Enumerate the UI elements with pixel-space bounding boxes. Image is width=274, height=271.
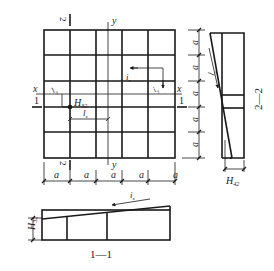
side-dim-a: a bbox=[189, 65, 200, 70]
side-dim-a: a bbox=[189, 40, 200, 45]
ix-label-section: ix bbox=[130, 190, 136, 201]
section-1-1-outline bbox=[42, 210, 170, 240]
bottom-dim-a: a bbox=[54, 169, 59, 180]
ix-slope-path bbox=[131, 68, 163, 88]
side-dim-a: a bbox=[189, 91, 200, 96]
bottom-dim-a: a bbox=[139, 169, 144, 180]
side-dim-a: a bbox=[189, 142, 200, 147]
plan-annotations: ly H32 lx ix iy bbox=[50, 68, 163, 119]
side-dim-a: a bbox=[189, 117, 200, 122]
h42-label: H42 bbox=[225, 175, 239, 187]
bottom-dim-a: a bbox=[173, 169, 178, 180]
section-2-2: a a a a a ly H42 2—2 bbox=[182, 28, 264, 187]
section-1-1-title: 1—1 bbox=[90, 248, 112, 260]
section-2-2-title: 2—2 bbox=[252, 88, 264, 110]
bottom-dim-a: a bbox=[111, 169, 116, 180]
section-2-label-bottom: 2 bbox=[58, 161, 68, 166]
section-1-1-slope bbox=[42, 206, 170, 219]
iy-label: iy bbox=[151, 84, 161, 95]
section-1-label-right: 1 bbox=[179, 95, 184, 106]
ix-label: ix bbox=[126, 72, 132, 83]
drawing-canvas: y y x x 2 2 1 1 ly H32 lx ix iy bbox=[0, 0, 274, 271]
section-1-1: ix H32 1—1 bbox=[26, 190, 170, 260]
x-axis-label: x bbox=[32, 83, 38, 94]
lx-label: lx bbox=[83, 108, 89, 119]
x-axis-label-right: x bbox=[176, 83, 182, 94]
section-1-label-left: 1 bbox=[34, 95, 39, 106]
h32-label-section: H32 bbox=[26, 217, 38, 231]
bottom-dim-a: a bbox=[84, 169, 89, 180]
section-2-label-top: 2 bbox=[58, 17, 68, 22]
y-axis-label: y bbox=[111, 15, 117, 26]
